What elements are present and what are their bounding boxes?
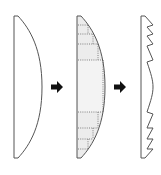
- arrow-right-icon: [51, 81, 63, 93]
- arrow-right-icon: [114, 81, 126, 93]
- fresnel-lens: [141, 16, 153, 158]
- convex-lens: [14, 16, 42, 158]
- lens-diagram: [0, 0, 161, 175]
- sectioned-lens: [77, 16, 105, 158]
